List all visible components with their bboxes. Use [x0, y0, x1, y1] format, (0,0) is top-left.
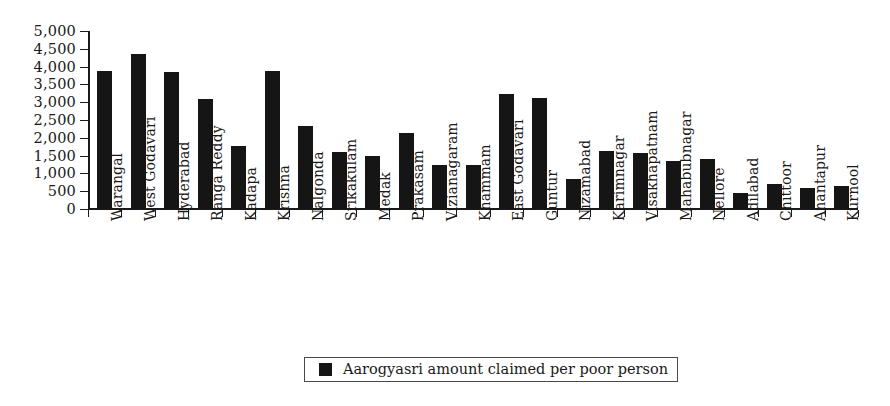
- x-axis-tick-label: East Godavari: [511, 120, 525, 221]
- x-axis-tick-label-text: Mahabubnagar: [679, 111, 693, 221]
- x-axis-tick-label-text: Vizianagaram: [445, 122, 459, 221]
- y-axis-tick: [80, 120, 88, 121]
- x-axis-tick-label: Mahabubnagar: [679, 111, 693, 221]
- chart-legend: Aarogyasri amount claimed per poor perso…: [304, 357, 678, 382]
- x-axis-tick-label-text: Kadapa: [244, 167, 258, 221]
- x-axis-tick-label: Warangal: [110, 153, 124, 221]
- x-axis-tick-label: Nizamabad: [578, 140, 592, 221]
- y-axis-tick-label: 5,000: [33, 24, 76, 39]
- y-axis-tick-label: 2,000: [33, 131, 76, 146]
- y-axis-tick: [80, 156, 88, 157]
- x-axis-tick-label: Adilabad: [746, 158, 760, 221]
- x-axis-tick-label: Visakhapatnam: [645, 110, 659, 221]
- x-axis-tick-label: Ranga Reddy: [210, 125, 224, 221]
- y-axis-tick-label: 1,500: [33, 149, 76, 164]
- y-axis-tick: [80, 138, 88, 139]
- x-axis-tick-label: Khammam: [478, 144, 492, 221]
- x-axis-tick-label-text: Guntur: [545, 170, 559, 221]
- x-axis-tick-label: Kadapa: [244, 167, 258, 221]
- x-axis-tick-label: Anantapur: [813, 145, 827, 221]
- x-axis-tick-label: Prakasam: [411, 150, 425, 221]
- x-axis-tick-label-text: Chittoor: [779, 161, 793, 221]
- x-axis-tick-label: Kurnool: [846, 164, 860, 221]
- y-axis-tick-label: 0: [67, 202, 76, 217]
- y-axis-tick: [80, 67, 88, 68]
- x-axis-tick-label-text: Srikakulam: [344, 139, 358, 221]
- x-axis-tick-label: Hyderabad: [177, 141, 191, 221]
- x-axis-tick-label: Medak: [378, 172, 392, 221]
- x-axis-tick-label-text: Karimnagar: [612, 135, 626, 221]
- x-axis-tick-label-text: Adilabad: [746, 158, 760, 221]
- x-axis-tick-label-text: Krishna: [277, 165, 291, 221]
- x-axis-tick-label-text: Khammam: [478, 144, 492, 221]
- x-axis-tick-label-text: Medak: [378, 172, 392, 221]
- y-axis-tick: [80, 84, 88, 85]
- x-axis-tick-label-text: Kurnool: [846, 164, 860, 221]
- x-axis-tick-label: Krishna: [277, 165, 291, 221]
- x-axis-tick-label-text: West Godavari: [143, 117, 157, 221]
- legend-label: Aarogyasri amount claimed per poor perso…: [343, 362, 668, 377]
- y-axis-tick-label: 3,500: [33, 77, 76, 92]
- x-axis-tick-label: Guntur: [545, 170, 559, 221]
- y-axis-tick-label: 500: [48, 184, 76, 199]
- y-axis-tick-label: 3,000: [33, 95, 76, 110]
- x-axis-tick-label-text: Warangal: [110, 153, 124, 221]
- x-axis-tick-label-text: Nizamabad: [578, 140, 592, 221]
- y-axis-tick: [80, 102, 88, 103]
- x-axis-tick-label: Nellore: [712, 167, 726, 221]
- x-axis-tick-label: West Godavari: [143, 117, 157, 221]
- y-axis-tick: [80, 49, 88, 50]
- x-axis-tick-label: Nalgonda: [311, 151, 325, 221]
- x-axis-tick-label: Srikakulam: [344, 139, 358, 221]
- y-axis-tick-label: 4,000: [33, 60, 76, 75]
- y-axis-tick: [80, 209, 88, 210]
- y-axis-tick-label: 2,500: [33, 113, 76, 128]
- x-axis-tick-label-text: Ranga Reddy: [210, 125, 224, 221]
- bars-container: [88, 31, 858, 209]
- x-axis-tick-label-text: Anantapur: [813, 145, 827, 221]
- bar-chart: 05001,0001,5002,0002,5003,0003,5004,0004…: [0, 0, 890, 406]
- x-axis-tick-label-text: Nellore: [712, 167, 726, 221]
- x-axis-tick-label-text: Prakasam: [411, 150, 425, 221]
- x-axis-tick-label: Karimnagar: [612, 135, 626, 221]
- y-axis-tick-label: 4,500: [33, 42, 76, 57]
- x-axis-tick-label-text: Visakhapatnam: [645, 110, 659, 221]
- y-axis-tick: [80, 31, 88, 32]
- y-axis-tick: [80, 173, 88, 174]
- x-axis-tick-label-text: East Godavari: [511, 120, 525, 221]
- legend-swatch-icon: [319, 363, 332, 376]
- y-axis-tick-label: 1,000: [33, 166, 76, 181]
- x-axis-tick-label-text: Nalgonda: [311, 151, 325, 221]
- x-axis-tick-label-text: Hyderabad: [177, 141, 191, 221]
- x-axis-tick-label: Chittoor: [779, 161, 793, 221]
- x-axis-tick-label: Vizianagaram: [445, 122, 459, 221]
- y-axis-tick: [80, 191, 88, 192]
- x-axis-tick: [88, 210, 89, 217]
